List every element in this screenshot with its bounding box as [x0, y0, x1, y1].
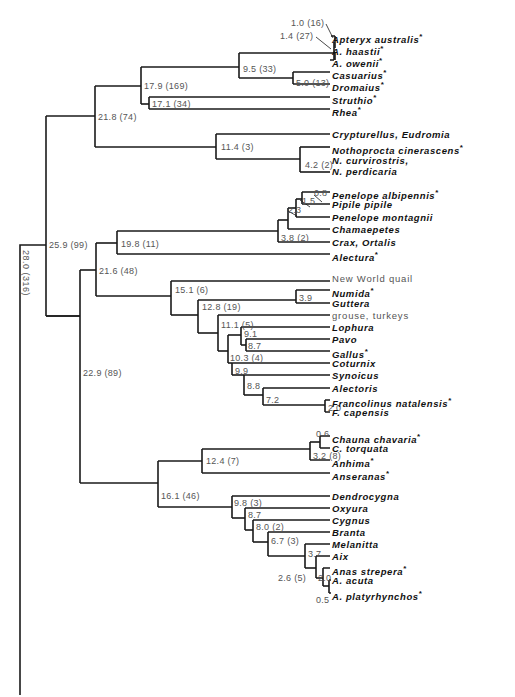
taxon-label: New World quail — [332, 273, 413, 284]
taxon-label: N. curvirostris, — [332, 155, 409, 166]
root-branch — [20, 245, 46, 695]
node-label: 2.3 — [288, 205, 301, 215]
node-label: 0.8 — [314, 188, 327, 198]
node-label: 15.1 (6) — [175, 285, 208, 295]
taxon-label: C. torquata — [332, 443, 389, 454]
taxon-label: F. capensis — [332, 407, 389, 418]
node-label: 8.7 — [248, 510, 261, 520]
node-label: 0.5 — [316, 595, 329, 605]
taxon-label: Lophura — [332, 322, 374, 333]
node-label: 21.8 (74) — [98, 112, 137, 122]
taxon-label: Numida* — [332, 285, 374, 299]
node-label: 5.0 (13) — [296, 78, 329, 88]
taxon-label: Synoicus — [332, 370, 379, 381]
taxon-label: Crypturellus, Eudromia — [332, 129, 450, 140]
node-label: 3.8 (2) — [281, 233, 309, 243]
taxon-label: Crax, Ortalis — [332, 237, 396, 248]
taxon-label: Pipile pipile — [332, 199, 393, 210]
node-label: 21.6 (48) — [99, 266, 138, 276]
node-label: 12.4 (7) — [206, 456, 239, 466]
node-label: 3.9 — [299, 293, 312, 303]
node-label: 25.9 (99) — [49, 240, 88, 250]
node-label: 4.2 (2) — [305, 160, 333, 170]
taxon-label: Melanitta — [332, 539, 379, 550]
node-label: 9.8 (3) — [234, 498, 262, 508]
taxon-label: Nothoprocta cinerascens* — [332, 142, 464, 156]
taxon-label: Pavo — [332, 334, 357, 345]
node-label: 8.8 — [247, 381, 260, 391]
taxon-label: A. platyrhynchos* — [332, 588, 422, 602]
node-label: 16.1 (46) — [161, 491, 200, 501]
node-label: 17.1 (34) — [152, 99, 191, 109]
taxon-label: Alectura* — [332, 249, 379, 263]
taxon-label: A. acuta — [332, 575, 374, 586]
taxon-label: grouse, turkeys — [332, 310, 409, 321]
node-label: 8.7 — [248, 341, 261, 351]
node-label: 1.5 — [302, 196, 315, 206]
node-label: 22.9 (89) — [83, 368, 122, 378]
taxon-label: Dromaius* — [332, 79, 384, 93]
taxon-label: Anseranas* — [332, 468, 390, 482]
node-label: 12.8 (19) — [202, 302, 241, 312]
taxon-label: Chamaepetes — [332, 224, 400, 235]
taxon-label: Alectoris — [332, 383, 378, 394]
node-label: 6.7 (3) — [271, 536, 299, 546]
taxon-label: Rhea* — [332, 104, 361, 118]
node-label: 1.0 (16) — [291, 18, 324, 28]
node-label: 9.5 (33) — [243, 64, 276, 74]
taxon-label: Anhima* — [332, 455, 374, 469]
node-label: 8.0 (2) — [256, 522, 284, 532]
taxon-label: Aix — [332, 551, 349, 562]
root-node-label: 28.0 (316) — [21, 250, 31, 296]
node-label: 19.8 (11) — [121, 239, 159, 249]
node-label: 2.0 — [318, 573, 331, 583]
node-label: 0.6 — [316, 429, 329, 439]
node-label: 9.1 — [244, 329, 257, 339]
node-label: 17.9 (169) — [144, 81, 188, 91]
taxon-label: Cygnus — [332, 515, 370, 526]
node-label: 2.6 (5) — [278, 573, 306, 583]
node-label: 10.3 (4) — [230, 353, 263, 363]
taxon-label: N. perdicaria — [332, 166, 397, 177]
node-label: 11.4 (3) — [221, 142, 254, 152]
taxon-label: Guttera — [332, 298, 370, 309]
node-label: 7.2 — [266, 395, 279, 405]
taxon-label: Penelope montagnii — [332, 212, 433, 223]
taxon-label: Coturnix — [332, 358, 376, 369]
taxon-label: Oxyura — [332, 503, 368, 514]
node-label: 3.7 — [308, 549, 321, 559]
taxon-label: Branta — [332, 527, 366, 538]
node-label: 1.4 (27) — [280, 31, 313, 41]
node-label: 9.9 — [235, 366, 248, 376]
taxon-label: Dendrocygna — [332, 491, 399, 502]
